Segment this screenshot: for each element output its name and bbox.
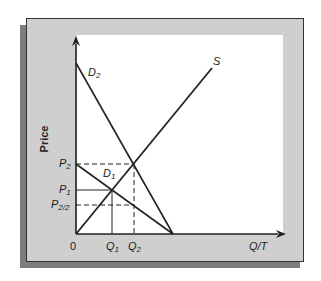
origin-label: 0 — [70, 241, 76, 252]
demand-curve-d2 — [76, 63, 173, 234]
curve-label-s: S — [213, 56, 220, 67]
quantity-label-q2: Q2 — [128, 241, 141, 254]
label-sub: 2/2 — [58, 203, 69, 212]
label-sub: 1 — [66, 188, 70, 197]
label-sub: 2 — [96, 71, 100, 80]
curve-label-d2: D2 — [88, 67, 100, 80]
curves — [76, 63, 212, 234]
label-sub: 1 — [115, 245, 119, 254]
axes — [72, 36, 286, 238]
price-label-p2-half: P2/2 — [51, 199, 69, 212]
price-label-p1: P1 — [59, 184, 71, 197]
x-axis-label: Q/T — [249, 241, 267, 252]
label-main: D — [88, 66, 96, 78]
label-main: Q — [106, 240, 115, 252]
y-axis-label: Price — [38, 126, 50, 153]
supply-curve-s — [76, 68, 212, 234]
label-main: Q — [128, 240, 137, 252]
label-sub: 1 — [111, 172, 115, 181]
price-label-p2: P2 — [59, 158, 71, 171]
label-main: D — [103, 167, 111, 179]
label-sub: 2 — [66, 162, 70, 171]
curve-label-d1: D1 — [103, 168, 115, 181]
quantity-label-q1: Q1 — [106, 241, 119, 254]
label-sub: 2 — [137, 245, 141, 254]
